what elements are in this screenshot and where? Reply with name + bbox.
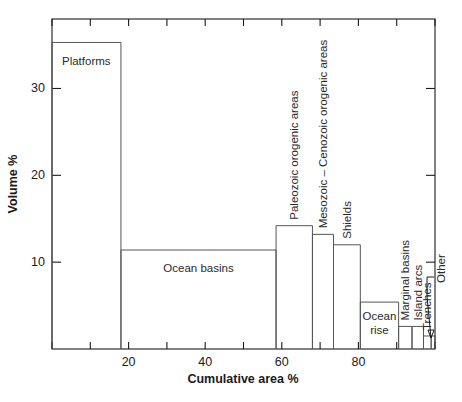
y-tick-label: 10: [31, 255, 45, 269]
x-tick-label: 80: [351, 355, 365, 369]
bar-label-shields: Shields: [341, 201, 353, 239]
bar-1: [52, 42, 121, 349]
x-axis-tick-labels: 20406080: [122, 355, 366, 369]
y-tick-label: 20: [31, 168, 45, 182]
bar-10: [431, 336, 435, 349]
plot-frame: [52, 19, 435, 349]
bar-label-other: Other: [435, 254, 447, 283]
y-tick-label: 30: [31, 81, 45, 95]
bar-3: [276, 226, 312, 349]
volume-vs-cumulative-area-chart: 20406080 102030 PlatformsOcean basinsPal…: [0, 0, 462, 402]
bar-7: [399, 326, 412, 349]
y-axis-title: Volume %: [6, 155, 20, 214]
bar-label-marginal-basins: Marginal basins: [399, 240, 411, 321]
bar-9: [424, 336, 432, 349]
bar-5: [334, 245, 361, 349]
bar-label-ocean-rise: Ocean: [363, 310, 397, 322]
bar-labels: PlatformsOcean basinsPaleozoic orogenic …: [62, 40, 447, 337]
x-axis-title: Cumulative area %: [187, 372, 298, 386]
bar-label-platforms: Platforms: [62, 55, 111, 67]
bar-label-ocean-rise-2: rise: [370, 324, 389, 336]
y-axis-tick-labels: 102030: [31, 81, 45, 269]
bar-label-ocean-basins: Ocean basins: [163, 262, 234, 274]
x-tick-label: 20: [122, 355, 136, 369]
x-tick-label: 40: [198, 355, 212, 369]
chart-figure: 20406080 102030 PlatformsOcean basinsPal…: [0, 0, 462, 402]
bar-series: [52, 42, 435, 349]
bar-4: [312, 234, 333, 349]
x-tick-label: 60: [275, 355, 289, 369]
bar-label-paleozoic-orogenic-areas: Paleozoic orogenic areas: [288, 90, 300, 219]
y-axis-ticks: [52, 88, 435, 262]
bar-label-mesozoic-cenozoic-orogenic-areas: Mesozoic – Cenozoic orogenic areas: [317, 40, 329, 229]
x-axis-ticks: [52, 19, 435, 349]
